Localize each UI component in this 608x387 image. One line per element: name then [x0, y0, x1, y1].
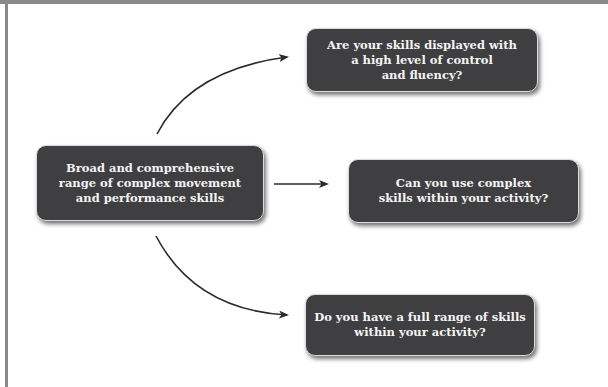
question-3-label: Do you have a full range of skills withi…: [314, 310, 526, 340]
question-1-label: Are your skills displayed with a high le…: [327, 38, 517, 83]
source-box: Broad and comprehensive range of complex…: [36, 145, 264, 221]
question-box-complex-skills: Can you use complex skills within your a…: [348, 159, 579, 223]
question-box-control-fluency: Are your skills displayed with a high le…: [306, 28, 538, 92]
arrow-to-question-3: [156, 236, 287, 315]
question-box-full-range: Do you have a full range of skills withi…: [305, 294, 535, 356]
arrow-to-question-1: [157, 57, 287, 134]
source-box-label: Broad and comprehensive range of complex…: [59, 161, 241, 206]
question-2-label: Can you use complex skills within your a…: [379, 176, 548, 206]
